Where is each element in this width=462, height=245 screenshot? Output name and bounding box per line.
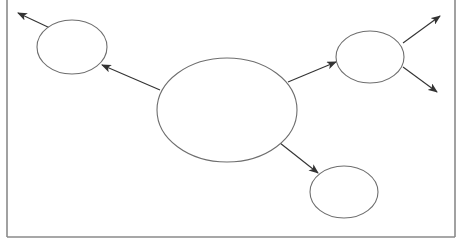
arrow-center-to-right <box>288 62 336 82</box>
node-bottom-right-ellipse <box>310 166 378 218</box>
arrow-center-to-bottom-right <box>280 143 318 173</box>
arrow-right-out-down <box>403 67 437 92</box>
arrow-top-left-out <box>18 13 50 28</box>
diagram-canvas <box>0 0 462 245</box>
node-top-left-ellipse <box>37 20 107 74</box>
arrow-right-out-up <box>403 16 440 43</box>
nodes-layer <box>37 20 404 218</box>
node-right-ellipse <box>336 31 404 83</box>
node-center-ellipse <box>157 58 297 162</box>
arrow-center-to-top-left <box>102 65 160 90</box>
